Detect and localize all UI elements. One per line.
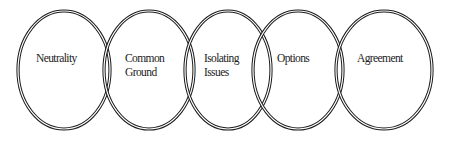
stage-label-line: Isolating [204, 52, 240, 65]
stage-label: Agreement [357, 52, 404, 65]
stage-label-line: Common [125, 52, 165, 64]
stage-label-line: Options [277, 52, 310, 65]
stage-label: CommonGround [125, 52, 165, 78]
stage-ellipse [18, 11, 110, 129]
stage-label-line: Agreement [357, 52, 404, 65]
stage-label: IsolatingIssues [204, 52, 240, 78]
stage-label: Options [277, 52, 310, 65]
stage-label-line: Issues [204, 66, 230, 78]
stage-label-line: Ground [125, 66, 157, 78]
stage-ellipse [253, 11, 343, 129]
stages-diagram: NeutralityCommonGroundIsolatingIssuesOpt… [0, 0, 449, 141]
stage-ellipse [336, 11, 432, 129]
stage-label: Neutrality [36, 52, 77, 65]
stage-label-line: Neutrality [36, 52, 77, 65]
